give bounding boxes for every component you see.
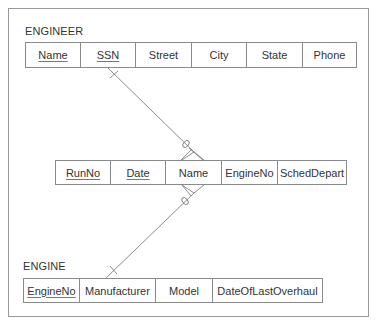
relationship-engineer-run xyxy=(108,68,204,160)
relationship-lines xyxy=(0,0,381,329)
relationship-run-engine xyxy=(106,185,204,278)
